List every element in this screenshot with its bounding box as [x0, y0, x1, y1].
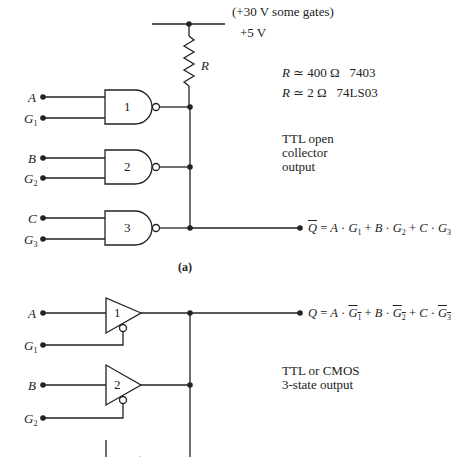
gate-label-g3: G3: [24, 232, 37, 249]
gate-number-3: 3: [124, 221, 131, 235]
output-equation-b: Q = A · G1 + B · G2 + C · G3: [308, 306, 451, 325]
description-a-line2: collector: [282, 146, 327, 160]
input-label-c: C: [28, 211, 37, 227]
nand-gate-1: [43, 90, 190, 124]
resistor-note-1: R ≃ 400 Ω 7403: [282, 66, 376, 80]
description-a-line1: TTL open: [282, 132, 334, 146]
junction-dots: [40, 21, 303, 421]
tristate-buffer-1: [43, 298, 300, 345]
gate-number-1: 1: [124, 100, 131, 114]
buffer-gate-label-g1: G1: [24, 338, 37, 355]
buffer-number-2: 2: [114, 378, 121, 392]
gate-number-2: 2: [124, 160, 131, 174]
tristate-buffer-3: [106, 440, 141, 457]
caption-a: (a): [178, 260, 192, 274]
buffer-input-label-b: B: [28, 378, 36, 394]
resistor-label: R: [201, 58, 209, 74]
description-b-line2: 3-state output: [282, 378, 353, 392]
pullup-resistor: [184, 36, 194, 86]
gate-label-g1: G1: [24, 111, 37, 128]
nand-gate-3: [43, 211, 190, 245]
buffer-gate-label-g2: G2: [24, 411, 37, 428]
resistor-note-2: R ≃ 2 Ω 74LS03: [282, 86, 378, 100]
buffer-number-1: 1: [114, 306, 121, 320]
description-b-line1: TTL or CMOS: [282, 364, 360, 378]
nand-gate-2: [43, 150, 190, 184]
supply-voltage-label: +5 V: [240, 26, 266, 40]
input-label-b: B: [28, 151, 36, 167]
gate-label-g2: G2: [24, 171, 37, 188]
description-a-line3: output: [282, 160, 315, 174]
alt-voltage-label: (+30 V some gates): [232, 5, 334, 19]
output-equation-a: Q = A · G1 + B · G2 + C · G3: [308, 221, 451, 240]
buffer-input-label-a: A: [28, 306, 36, 322]
input-label-a: A: [28, 90, 36, 106]
